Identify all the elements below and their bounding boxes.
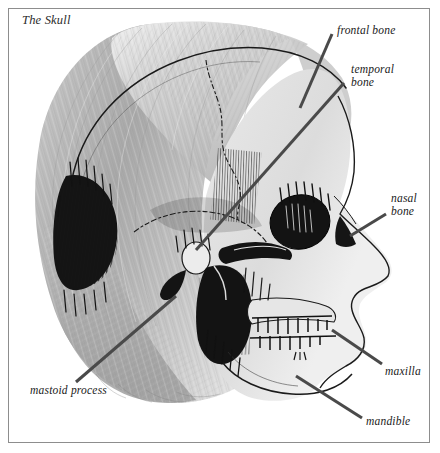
label-nasal-bone-line2: bone	[391, 205, 414, 217]
label-mandible: mandible	[366, 415, 410, 428]
label-maxilla: maxilla	[385, 365, 421, 378]
figure-title: The Skull	[22, 14, 71, 27]
label-temporal-bone: temporalbone	[351, 63, 394, 89]
label-nasal-bone-line1: nasal	[391, 192, 417, 204]
label-frontal-bone: frontal bone	[337, 24, 396, 37]
label-mastoid-process: mastoid process	[30, 384, 107, 397]
label-temporal-bone-line1: temporal	[351, 63, 394, 75]
label-temporal-bone-line2: bone	[351, 76, 374, 88]
skull-figure: The Skull frontal bone temporalbone nasa…	[0, 0, 440, 453]
label-nasal-bone: nasalbone	[391, 192, 417, 218]
